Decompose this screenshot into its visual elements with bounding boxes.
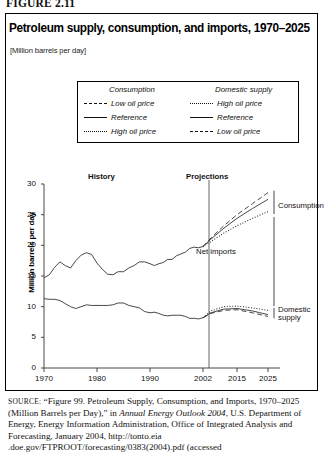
legend-swatch-dotted-icon — [84, 128, 107, 135]
annotation-projections: Projections — [186, 172, 228, 181]
legend-item: Low oil price — [84, 97, 156, 111]
y-tick-label: 20 — [20, 241, 36, 249]
figure-box — [5, 13, 318, 391]
y-tick-label: 15 — [20, 272, 36, 280]
legend-item-label: Low oil price — [111, 99, 154, 108]
figure-number: FIGURE 2.11 — [6, 0, 75, 9]
x-tick-label: 1970 — [29, 375, 59, 383]
x-tick-label: 1980 — [82, 375, 112, 383]
x-tick-label: 1990 — [135, 375, 165, 383]
source-prefix: SOURCE: — [8, 397, 41, 406]
y-tick-label: 30 — [20, 180, 36, 188]
legend-item-label: Reference — [111, 113, 147, 122]
chart-subtitle: [Million barrels per day] — [10, 46, 86, 55]
y-tick-label: 25 — [20, 211, 36, 219]
source-note: SOURCE: “Figure 99. Petroleum Supply, Co… — [8, 396, 316, 454]
y-axis-title: Million barrels per day — [27, 212, 36, 292]
chart-legend: Consumption Low oil price Reference High… — [77, 81, 299, 143]
legend-item-label: High oil price — [111, 127, 156, 136]
annotation-domestic-supply-2: supply — [278, 313, 301, 322]
x-tick-label: 2025 — [253, 375, 283, 383]
annotation-consumption: Consumption — [278, 201, 324, 210]
legend-item-label: Low oil price — [217, 127, 260, 136]
legend-item: High oil price — [84, 125, 156, 139]
y-tick-label: 0 — [20, 364, 36, 372]
source-publication: Annual Energy Outlook 2004 — [119, 408, 226, 418]
legend-item: Reference — [190, 111, 272, 125]
legend-item: Low oil price — [190, 125, 272, 139]
legend-swatch-solid-icon — [190, 114, 213, 121]
legend-item: High oil price — [190, 97, 272, 111]
legend-item-label: High oil price — [217, 99, 262, 108]
legend-heading: Domestic supply — [215, 85, 272, 94]
annotation-history: History — [88, 172, 115, 181]
y-tick-label: 10 — [20, 303, 36, 311]
chart-title: Petroleum supply, consumption, and impor… — [9, 21, 297, 35]
legend-swatch-dashed-icon — [190, 128, 213, 135]
legend-swatch-dotted-icon — [190, 100, 213, 107]
annotation-net-imports: Net imports — [196, 247, 236, 256]
legend-swatch-solid-icon — [84, 114, 107, 121]
figure-panel: FIGURE 2.11 Petroleum supply, consumptio… — [0, 0, 324, 455]
x-tick-label: 2015 — [222, 375, 252, 383]
x-tick-label: 2002 — [188, 375, 218, 383]
legend-column-domestic-supply: Domestic supply High oil price Reference… — [190, 85, 272, 139]
legend-column-consumption: Consumption Low oil price Reference High… — [84, 85, 156, 139]
legend-item-label: Reference — [217, 113, 253, 122]
y-tick-label: 5 — [20, 333, 36, 341]
legend-heading: Consumption — [109, 85, 156, 94]
legend-item: Reference — [84, 111, 156, 125]
legend-swatch-dashed-icon — [84, 100, 107, 107]
